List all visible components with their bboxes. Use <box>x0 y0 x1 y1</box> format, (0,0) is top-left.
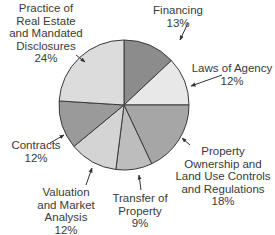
slice-percent: 12% <box>192 75 273 88</box>
slice-label-line: Disclosures <box>9 40 83 53</box>
slice-label: Financing13% <box>153 4 203 29</box>
slice-label-line: Analysis <box>37 211 95 224</box>
slice-label-line: Transfer of <box>112 192 167 205</box>
slice-label-line: Property <box>175 145 270 158</box>
slice-label-line: Valuation <box>37 186 95 199</box>
slice-label-line: Practice of <box>9 2 83 15</box>
slice-label: Transfer ofProperty9% <box>112 192 167 230</box>
slice-label-line: Laws of Agency <box>192 62 273 75</box>
leader-arrow-icon <box>182 138 190 145</box>
slice-label: PropertyOwnership andLand Use Controlsan… <box>175 145 270 208</box>
slice-percent: 18% <box>175 195 270 208</box>
slice-label-line: and Market <box>37 199 95 212</box>
slice-label-line: and Regulations <box>175 183 270 196</box>
slice-label: Valuationand MarketAnalysis12% <box>37 186 95 234</box>
slice-label: Contracts12% <box>11 139 60 164</box>
leader-arrow-icon <box>86 168 92 185</box>
slice-percent: 12% <box>37 224 95 235</box>
slice-label-line: Real Estate <box>9 15 83 28</box>
leader-arrow-icon <box>139 175 141 190</box>
slice-percent: 13% <box>153 17 203 30</box>
slice-label: Laws of Agency12% <box>192 62 273 87</box>
slice-label: Practice ofReal Estateand MandatedDisclo… <box>9 2 83 65</box>
slice-label-line: Land Use Controls <box>175 170 270 183</box>
slice-label-line: and Mandated <box>9 27 83 40</box>
slice-percent: 24% <box>9 52 83 65</box>
slice-label-line: Property <box>112 205 167 218</box>
slice-percent: 9% <box>112 217 167 230</box>
slice-label-line: Ownership and <box>175 158 270 171</box>
slice-percent: 12% <box>11 152 60 165</box>
slice-label-line: Contracts <box>11 139 60 152</box>
slice-label-line: Financing <box>153 4 203 17</box>
